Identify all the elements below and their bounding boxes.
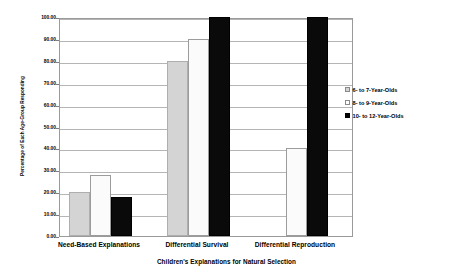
legend-swatch-icon	[345, 113, 350, 118]
y-tick-label: 0.00	[22, 234, 56, 239]
y-tick-mark	[56, 237, 59, 238]
bar-chart-figure: Percentage of Each Age-Group Responding …	[0, 0, 453, 277]
legend-label: 8- to 9-Year-Olds	[353, 100, 398, 106]
y-tick-label: 70.00	[22, 81, 56, 86]
bar	[69, 192, 90, 236]
y-tick-label: 90.00	[22, 37, 56, 42]
y-tick-label: 60.00	[22, 103, 56, 108]
y-tick-label: 100.00	[22, 15, 56, 20]
y-tick-label: 30.00	[22, 168, 56, 173]
bar	[167, 61, 188, 236]
x-tick-label: Differential Reproduction	[225, 241, 365, 248]
y-tick-label: 10.00	[22, 212, 56, 217]
y-tick-label: 20.00	[22, 190, 56, 195]
legend-label: 6- to 7-Year-Olds	[353, 87, 398, 93]
bar	[307, 17, 328, 236]
bar	[188, 39, 209, 236]
bar	[90, 175, 111, 236]
legend-swatch-icon	[345, 87, 350, 92]
legend-label: 10- to 12-Year-Olds	[353, 113, 404, 119]
y-tick-label: 40.00	[22, 146, 56, 151]
bar	[209, 17, 230, 236]
legend-item[interactable]: 10- to 12-Year-Olds	[345, 109, 449, 122]
y-tick-label: 50.00	[22, 125, 56, 130]
x-axis-title-label: Children's Explanations for Natural Sele…	[0, 258, 453, 265]
y-tick-label: 80.00	[22, 59, 56, 64]
plot-area	[59, 18, 353, 237]
bar	[286, 148, 307, 236]
legend: 6- to 7-Year-Olds8- to 9-Year-Olds10- to…	[345, 83, 449, 122]
legend-swatch-icon	[345, 100, 350, 105]
legend-item[interactable]: 6- to 7-Year-Olds	[345, 83, 449, 96]
legend-item[interactable]: 8- to 9-Year-Olds	[345, 96, 449, 109]
bar	[111, 197, 132, 236]
